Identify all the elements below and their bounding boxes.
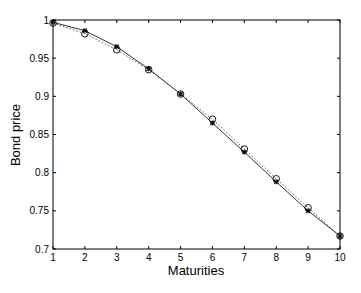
x-tick-label: 4 — [146, 252, 152, 263]
plot-area — [53, 20, 340, 249]
y-tick-label: 0.85 — [30, 129, 50, 140]
x-tick-label: 6 — [210, 252, 216, 263]
y-tick-label: 0.8 — [35, 167, 49, 178]
y-tick-label: 0.7 — [35, 244, 49, 255]
y-tick-label: 0.9 — [35, 91, 49, 102]
y-tick-label: 0.95 — [30, 53, 50, 64]
x-tick-label: 9 — [305, 252, 311, 263]
x-tick-label: 1 — [50, 252, 56, 263]
x-tick-label: 3 — [114, 252, 120, 263]
x-tick-label: 2 — [82, 252, 88, 263]
x-tick-label: 8 — [273, 252, 279, 263]
x-tick-label: 7 — [242, 252, 248, 263]
bond-price-chart: 0.70.750.80.850.90.951 12345678910 Matur… — [0, 0, 361, 293]
x-tick-label: 10 — [334, 252, 346, 263]
x-tick-label: 5 — [178, 252, 184, 263]
y-tick-label: 1 — [43, 15, 49, 26]
y-tick-label: 0.75 — [30, 205, 50, 216]
x-axis-label: Maturities — [168, 263, 225, 278]
y-axis-label: Bond price — [8, 104, 23, 166]
